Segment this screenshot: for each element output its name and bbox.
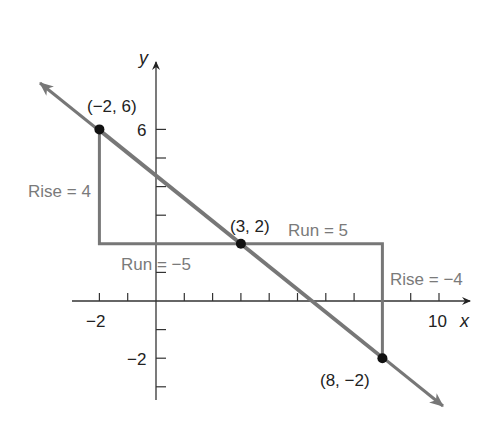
y-axis-label: y [137,48,149,68]
point-c [377,353,387,363]
point-b-label: (3, 2) [230,217,270,236]
run-right-label: Run = 5 [288,221,348,240]
x-tick-label-neg2: −2 [86,312,105,331]
rise-right-label: Rise = −4 [390,270,463,289]
x-tick-label-10: 10 [428,312,447,331]
point-a-label: (−2, 6) [87,97,137,116]
slope-chart: (−2, 6) (3, 2) (8, −2) Rise = 4 Run = −5… [0,0,490,436]
x-ticks [99,293,439,301]
point-b [236,239,246,249]
point-a [94,124,104,134]
x-axis-label: x [459,311,470,331]
rise-left-label: Rise = 4 [28,182,91,201]
y-tick-label-neg2: −2 [127,350,146,369]
point-c-label: (8, −2) [320,371,370,390]
run-left-label: Run = −5 [121,255,191,274]
y-tick-label-6: 6 [137,121,146,140]
